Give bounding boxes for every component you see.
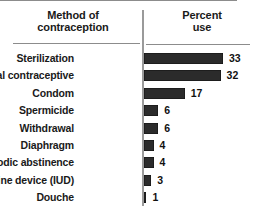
- column-header-method: Method of contraception: [8, 10, 138, 33]
- bar-row-label: Spermicide: [0, 104, 74, 117]
- bar-row: Intrauterine device (IUD)3: [0, 174, 264, 191]
- bar-row-label: Periodic abstinence: [0, 156, 74, 169]
- bar: [144, 192, 146, 203]
- bar-value-label: 33: [229, 53, 241, 64]
- bar-wrapper: 6: [144, 104, 170, 117]
- column-header-percent: Percent use: [150, 10, 254, 33]
- bar-row: Diaphragm4: [0, 139, 264, 156]
- bar-row-label: Douche: [0, 191, 74, 204]
- bar-value-label: 3: [157, 175, 163, 186]
- column-header-percent-line1: Percent: [182, 9, 222, 21]
- bar-wrapper: 6: [144, 122, 170, 135]
- bar: [144, 157, 154, 168]
- bar-row-label: Diaphragm: [0, 139, 74, 152]
- bar-value-label: 6: [164, 105, 170, 116]
- bar-row-label: Condom: [0, 87, 74, 100]
- bar-value-label: 1: [152, 192, 158, 203]
- bar-row: Douche1: [0, 191, 264, 208]
- bar-wrapper: 4: [144, 139, 165, 152]
- bar-row: Oral contraceptive32: [0, 69, 264, 86]
- bar-row: Spermicide6: [0, 104, 264, 121]
- bar-value-label: 32: [227, 70, 239, 81]
- bar-row: Sterilization33: [0, 52, 264, 69]
- bar-value-label: 4: [160, 140, 166, 151]
- contraception-bar-chart: Method of contraception Percent use Ster…: [0, 0, 264, 221]
- bar: [144, 70, 221, 81]
- bar: [144, 105, 158, 116]
- bar: [144, 140, 154, 151]
- bar-row: Periodic abstinence4: [0, 156, 264, 173]
- column-header-method-line1: Method of: [47, 9, 99, 21]
- bar-wrapper: 32: [144, 69, 238, 82]
- bar-value-label: 4: [160, 157, 166, 168]
- bar-row-label: Sterilization: [0, 52, 74, 65]
- bar-row-label: Oral contraceptive: [0, 69, 74, 82]
- bar-wrapper: 17: [144, 87, 202, 100]
- bar: [144, 175, 151, 186]
- column-header-percent-line2: use: [150, 22, 254, 34]
- bar-row-label: Withdrawal: [0, 122, 74, 135]
- bar-wrapper: 1: [144, 191, 158, 204]
- bar: [144, 53, 223, 64]
- bar-rows: Sterilization33Oral contraceptive32Condo…: [0, 52, 264, 209]
- bar-row-label: Intrauterine device (IUD): [0, 174, 74, 187]
- column-header-method-line2: contraception: [8, 22, 138, 34]
- bar: [144, 123, 158, 134]
- bar-value-label: 6: [164, 123, 170, 134]
- bar-row: Withdrawal6: [0, 122, 264, 139]
- chart-header: Method of contraception Percent use: [0, 8, 264, 44]
- bar-wrapper: 3: [144, 174, 163, 187]
- bar-row: Condom17: [0, 87, 264, 104]
- header-rule-right: [146, 44, 250, 45]
- bar-wrapper: 33: [144, 52, 241, 65]
- bar: [144, 88, 185, 99]
- header-rule-left: [13, 43, 140, 44]
- footer-rule: [0, 0, 237, 1]
- bar-value-label: 17: [191, 88, 203, 99]
- bar-wrapper: 4: [144, 156, 165, 169]
